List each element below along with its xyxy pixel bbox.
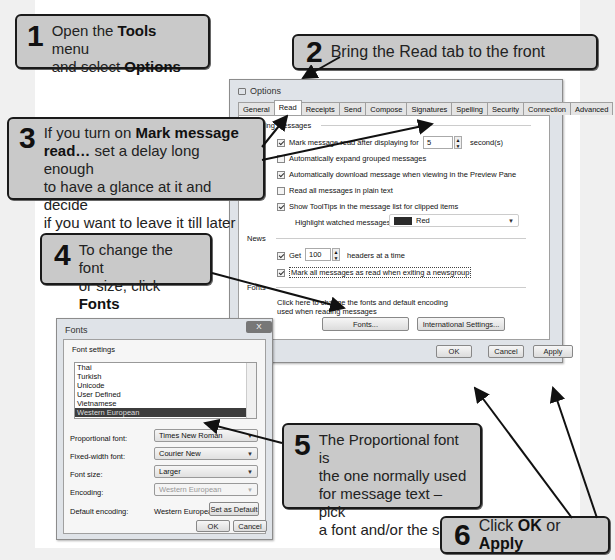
auto-download-row[interactable]: Automatically download message when view… [277, 170, 516, 179]
callout-step-6: 6 Click OK or Apply [440, 516, 610, 554]
delay-spinner[interactable]: ▲▼ [454, 136, 462, 149]
mark-read-checkbox[interactable] [277, 139, 285, 147]
list-item[interactable]: Unicode [75, 381, 256, 390]
section-news-label: News [247, 234, 266, 243]
tab-send[interactable]: Send [339, 102, 367, 115]
background-left [0, 0, 35, 560]
set-as-default-button[interactable]: Set as Default [209, 502, 259, 516]
step-number: 5 [294, 431, 311, 459]
news-mark-label: Mark all messages as read when exiting a… [289, 267, 471, 278]
tab-spelling[interactable]: Spelling [451, 102, 488, 115]
auto-download-label: Automatically download message when view… [289, 170, 516, 179]
list-item-selected[interactable]: Western European [75, 408, 256, 417]
chevron-down-icon: ▼ [247, 451, 253, 457]
fixed-width-font-value: Courier New [159, 449, 201, 458]
step-number: 2 [306, 38, 323, 66]
options-apply-button[interactable]: Apply [533, 345, 573, 358]
tab-receipts[interactable]: Receipts [301, 102, 340, 115]
tooltips-checkbox[interactable] [277, 203, 285, 211]
chevron-down-icon: ▼ [247, 487, 253, 493]
options-cancel-button[interactable]: Cancel [488, 345, 524, 358]
international-settings-button[interactable]: International Settings... [417, 317, 505, 331]
news-mark-checkbox[interactable] [277, 269, 285, 277]
fonts-button[interactable]: Fonts... [322, 317, 409, 331]
callout-step-4: 4 To change the font or size, click Font… [40, 233, 212, 285]
font-size-select[interactable]: Larger ▼ [154, 465, 258, 478]
proportional-font-select[interactable]: Times New Roman ▼ [154, 429, 258, 442]
delay-input[interactable]: 5 [423, 136, 453, 149]
callout-step-2: 2 Bring the Read tab to the front [292, 34, 598, 70]
tab-security[interactable]: Security [487, 102, 524, 115]
chevron-down-icon: ▼ [247, 433, 253, 439]
font-settings-label: Font settings [72, 345, 115, 354]
list-item[interactable]: Vietnamese [75, 399, 256, 408]
news-get-checkbox[interactable] [277, 252, 285, 260]
encoding-value: Western European [159, 485, 221, 494]
font-settings-group: Font settings [72, 345, 115, 354]
expand-grouped-label: Automatically expand grouped messages [289, 154, 426, 163]
tab-compose[interactable]: Compose [365, 102, 407, 115]
options-title-bar: Options [230, 80, 562, 102]
list-scrollbar[interactable] [246, 363, 256, 418]
fonts-title: Fonts [65, 325, 88, 335]
encoding-label: Encoding: [70, 488, 103, 497]
highlight-color-swatch [394, 217, 412, 225]
highlight-color-select[interactable]: Red ▼ [389, 214, 519, 227]
tab-general[interactable]: General [238, 102, 275, 115]
chevron-down-icon: ▼ [508, 218, 514, 224]
list-item[interactable]: Turkish [75, 372, 256, 381]
arrow-to-ok [475, 388, 572, 518]
fonts-title-bar: Fonts [57, 319, 272, 341]
tab-signatures[interactable]: Signatures [406, 102, 452, 115]
fonts-dialog: Fonts X Font settings Thai Turkish Unico… [56, 318, 273, 540]
fonts-ok-button[interactable]: OK [196, 520, 230, 532]
expand-grouped-row[interactable]: Automatically expand grouped messages [277, 154, 426, 163]
fonts-cancel-button[interactable]: Cancel [233, 520, 267, 532]
list-item[interactable]: User Defined [75, 390, 256, 399]
encoding-list[interactable]: Thai Turkish Unicode User Defined Vietna… [74, 362, 257, 419]
plain-text-label: Read all messages in plain text [289, 186, 393, 195]
plain-text-row[interactable]: Read all messages in plain text [277, 186, 393, 195]
fixed-width-font-select[interactable]: Courier New ▼ [154, 447, 258, 460]
callout-text: Open the Tools menu and select Options [52, 22, 198, 76]
encoding-select[interactable]: Western European ▼ [154, 483, 258, 496]
default-encoding-value: Western European [154, 507, 216, 516]
tooltips-label: Show ToolTips in the message list for cl… [289, 202, 458, 211]
section-news: News [247, 234, 537, 243]
tooltips-row[interactable]: Show ToolTips in the message list for cl… [277, 202, 458, 211]
default-encoding-label: Default encoding: [70, 507, 128, 516]
step-number: 6 [454, 521, 471, 549]
fonts-desc-1: Click here to change the fonts and defau… [277, 298, 448, 307]
mark-read-label: Mark message read after displaying for [289, 138, 419, 147]
list-item[interactable]: Thai [75, 363, 256, 372]
options-ok-button[interactable]: OK [436, 345, 472, 358]
options-dialog: Options General Read Receipts Send Compo… [229, 79, 563, 363]
options-title: Options [250, 86, 281, 96]
news-headers-spinner[interactable]: ▲▼ [332, 248, 340, 261]
tab-advanced[interactable]: Advanced [570, 102, 613, 115]
section-fonts: Fonts [247, 283, 537, 292]
mark-read-row[interactable]: Mark message read after displaying for [277, 138, 419, 147]
news-headers-input[interactable]: 100 [305, 248, 331, 261]
news-mark-row[interactable]: Mark all messages as read when exiting a… [277, 267, 471, 278]
plain-text-checkbox[interactable] [277, 187, 285, 195]
step-number: 1 [27, 22, 44, 50]
news-get-label: Get [289, 251, 301, 260]
news-headers-label: headers at a time [347, 251, 405, 260]
auto-download-checkbox[interactable] [277, 171, 285, 179]
fixed-width-label: Fixed-width font: [70, 452, 125, 461]
callout-text: Bring the Read tab to the front [331, 43, 545, 61]
proportional-label: Proportional font: [70, 434, 127, 443]
tab-connection[interactable]: Connection [523, 102, 571, 115]
options-tabs: General Read Receipts Send Compose Signa… [238, 102, 612, 115]
callout-step-5: 5 The Proportional font is the one norma… [282, 423, 482, 509]
section-reading: Reading Messages [247, 121, 537, 130]
news-get-row[interactable]: Get [277, 251, 301, 260]
highlight-label: Highlight watched messages: [295, 218, 393, 227]
read-tab-panel: Reading Messages Mark message read after… [238, 115, 550, 340]
expand-grouped-checkbox[interactable] [277, 155, 285, 163]
tab-read[interactable]: Read [274, 100, 302, 115]
close-icon[interactable]: X [246, 321, 272, 333]
step-number: 3 [19, 124, 36, 152]
background-right [580, 0, 615, 560]
